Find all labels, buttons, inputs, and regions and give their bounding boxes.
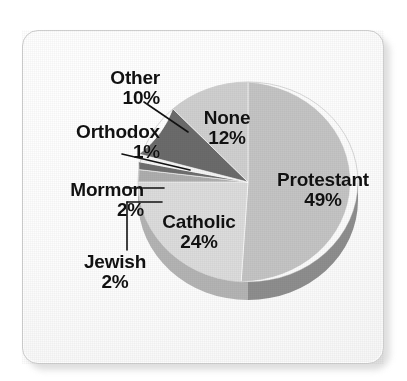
slice-label-catholic: Catholic 24%	[146, 212, 252, 252]
slice-label-protestant-name: Protestant	[264, 170, 382, 190]
slice-label-protestant-percent: 49%	[264, 190, 382, 210]
slice-label-other-name: Other	[40, 68, 160, 88]
slice-label-orthodox: Orthodox 1%	[26, 122, 160, 162]
slice-label-catholic-name: Catholic	[146, 212, 252, 232]
slice-label-mormon-name: Mormon	[22, 180, 144, 200]
slice-label-none-percent: 12%	[184, 128, 270, 148]
slice-label-none: None 12%	[184, 108, 270, 148]
slice-label-protestant: Protestant 49%	[264, 170, 382, 210]
slice-label-none-name: None	[184, 108, 270, 128]
pie-chart-screenshot: Other 10% Orthodox 1% Mormon 2% Jewish 2…	[0, 0, 407, 381]
slice-label-orthodox-percent: 1%	[26, 142, 160, 162]
slice-label-catholic-percent: 24%	[146, 232, 252, 252]
slice-label-other-percent: 10%	[40, 88, 160, 108]
slice-label-mormon: Mormon 2%	[22, 180, 144, 220]
slice-label-jewish-name: Jewish	[60, 252, 170, 272]
slice-label-other: Other 10%	[40, 68, 160, 108]
slice-label-jewish-percent: 2%	[60, 272, 170, 292]
chart-area: Other 10% Orthodox 1% Mormon 2% Jewish 2…	[22, 30, 384, 364]
slice-label-orthodox-name: Orthodox	[26, 122, 160, 142]
slice-label-mormon-percent: 2%	[22, 200, 144, 220]
slice-label-jewish: Jewish 2%	[60, 252, 170, 292]
